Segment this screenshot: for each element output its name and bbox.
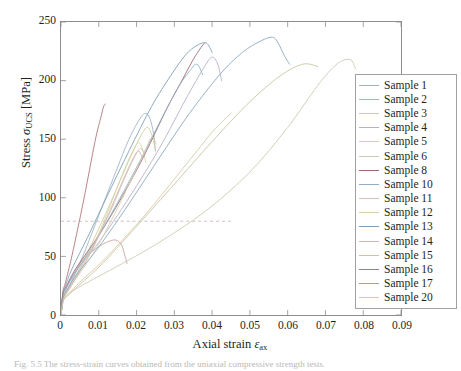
- legend-item-label: Sample 5: [384, 136, 427, 147]
- series-line-sample-8: [61, 43, 205, 315]
- series-line-sample-6: [61, 59, 356, 315]
- legend-item-sample-15[interactable]: Sample 15: [356, 248, 456, 262]
- series-line-sample-13: [61, 43, 212, 315]
- legend-swatch-icon: [359, 212, 379, 213]
- legend-swatch-icon: [359, 255, 379, 256]
- legend-swatch-icon: [359, 198, 379, 199]
- y-tick-label: 200: [22, 74, 56, 85]
- legend-swatch-icon: [359, 170, 379, 171]
- figure-caption: Fig. 5.5 The stress-strain curves obtain…: [14, 359, 454, 369]
- legend-item-sample-12[interactable]: Sample 12: [356, 206, 456, 220]
- legend-item-label: Sample 14: [384, 236, 433, 247]
- legend-swatch-icon: [359, 99, 379, 100]
- series-line-sample-20: [61, 113, 231, 315]
- legend-item-label: Sample 16: [384, 264, 433, 275]
- y-tick-label: 150: [22, 133, 56, 144]
- legend-swatch-icon: [359, 85, 379, 86]
- legend-item-sample-14[interactable]: Sample 14: [356, 234, 456, 248]
- legend-item-sample-2[interactable]: Sample 2: [356, 92, 456, 106]
- legend-item-sample-17[interactable]: Sample 17: [356, 277, 456, 291]
- legend-swatch-icon: [359, 269, 379, 270]
- figure-container: Stress σUCS [MPa] 050100150200250 00.010…: [0, 0, 461, 371]
- legend-item-label: Sample 12: [384, 207, 433, 218]
- legend-item-sample-10[interactable]: Sample 10: [356, 177, 456, 191]
- legend-item-sample-5[interactable]: Sample 5: [356, 135, 456, 149]
- legend-swatch-icon: [359, 127, 379, 128]
- legend-item-sample-4[interactable]: Sample 4: [356, 121, 456, 135]
- legend-swatch-icon: [359, 141, 379, 142]
- legend-item-sample-11[interactable]: Sample 11: [356, 192, 456, 206]
- series-line-sample-15: [61, 64, 318, 315]
- legend-item-label: Sample 2: [384, 94, 427, 105]
- legend-item-sample-6[interactable]: Sample 6: [356, 149, 456, 163]
- legend-box[interactable]: Sample 1Sample 2Sample 3Sample 4Sample 5…: [355, 74, 457, 309]
- legend-item-label: Sample 15: [384, 250, 433, 261]
- legend-item-sample-8[interactable]: Sample 8: [356, 163, 456, 177]
- legend-swatch-icon: [359, 184, 379, 185]
- series-line-sample-17: [61, 37, 290, 315]
- legend-swatch-icon: [359, 297, 379, 298]
- legend-swatch-icon: [359, 241, 379, 242]
- legend-item-label: Sample 20: [384, 292, 433, 303]
- legend-item-sample-3[interactable]: Sample 3: [356, 106, 456, 120]
- series-line-sample-4: [61, 57, 222, 315]
- legend-item-label: Sample 13: [384, 221, 433, 232]
- legend-item-sample-16[interactable]: Sample 16: [356, 262, 456, 276]
- legend-item-label: Sample 4: [384, 122, 427, 133]
- legend-item-sample-1[interactable]: Sample 1: [356, 78, 456, 92]
- legend-item-label: Sample 3: [384, 108, 427, 119]
- y-tick-label: 100: [22, 192, 56, 203]
- legend-item-label: Sample 10: [384, 179, 433, 190]
- legend-item-label: Sample 11: [384, 193, 432, 204]
- x-axis-label: Axial strain εax: [60, 337, 400, 352]
- y-tick-label: 50: [22, 251, 56, 262]
- legend-item-label: Sample 17: [384, 278, 433, 289]
- y-tick-label: 250: [22, 15, 56, 26]
- legend-item-label: Sample 1: [384, 80, 427, 91]
- x-tick-label: 0.09: [372, 320, 432, 331]
- legend-swatch-icon: [359, 283, 379, 284]
- legend-item-label: Sample 8: [384, 165, 427, 176]
- plot-svg: [61, 22, 401, 315]
- legend-swatch-icon: [359, 156, 379, 157]
- legend-item-sample-20[interactable]: Sample 20: [356, 291, 456, 305]
- legend-item-label: Sample 6: [384, 151, 427, 162]
- plot-area: [60, 21, 402, 316]
- legend-item-sample-13[interactable]: Sample 13: [356, 220, 456, 234]
- legend-swatch-icon: [359, 226, 379, 227]
- series-line-sample-10: [61, 64, 203, 315]
- y-axis-ticks: 050100150200250: [18, 0, 56, 371]
- legend-swatch-icon: [359, 113, 379, 114]
